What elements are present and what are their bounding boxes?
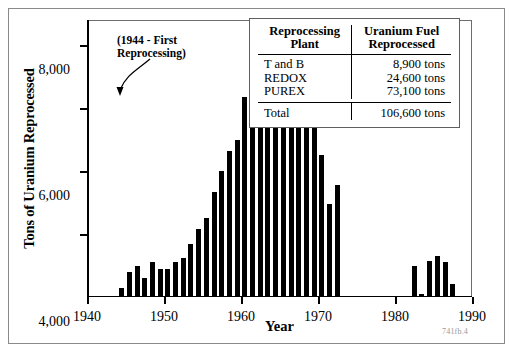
y-tick-mark: 6,000 [80, 108, 87, 110]
table-header-row: Reprocessing Plant Uranium Fuel Reproces… [258, 25, 451, 55]
table-total-row: Total106,600 tons [258, 102, 451, 120]
x-tick-mark: 1980 [395, 297, 397, 304]
x-axis-title: Year [87, 318, 472, 335]
header-plant: Reprocessing Plant [258, 25, 352, 55]
annotation-line-2: Reprocessing) [117, 47, 186, 60]
y-tick-label: 8,000 [39, 62, 71, 78]
header-amount: Uranium Fuel Reprocessed [352, 25, 451, 55]
cell-total-label: Total [258, 102, 352, 120]
y-tick-mark: 8,000 [80, 45, 87, 47]
annotation-first-reprocessing: (1944 - First Reprocessing) [117, 34, 186, 60]
x-tick-mark: 1990 [472, 297, 474, 304]
x-tick-mark: 1970 [318, 297, 320, 304]
table-row: REDOX24,600 tons [258, 72, 451, 86]
figure-id-label: 741fb.4 [442, 327, 468, 336]
inset-summary-table: Reprocessing Plant Uranium Fuel Reproces… [249, 18, 460, 128]
table-row: PUREX73,100 tons [258, 85, 451, 99]
cell-plant: PUREX [258, 85, 352, 99]
y-axis-title: Tons of Uranium Reprocessed [21, 54, 38, 264]
cell-total-amount: 106,600 tons [352, 102, 451, 120]
x-tick-mark: 1950 [164, 297, 166, 304]
figure-container: Tons of Uranium Reprocessed 2,0004,0006,… [0, 0, 513, 352]
y-tick-mark: 4,000 [80, 171, 87, 173]
reprocessing-table: Reprocessing Plant Uranium Fuel Reproces… [258, 25, 451, 120]
y-tick-label: 4,000 [39, 314, 71, 330]
cell-amount: 73,100 tons [352, 85, 451, 99]
cell-plant: T and B [258, 55, 352, 72]
cell-amount: 24,600 tons [352, 72, 451, 86]
table-row: T and B8,900 tons [258, 55, 451, 72]
cell-plant: REDOX [258, 72, 352, 86]
x-tick-mark: 1960 [241, 297, 243, 304]
cell-amount: 8,900 tons [352, 55, 451, 72]
table-body: T and B8,900 tonsREDOX24,600 tonsPUREX73… [258, 55, 451, 121]
annotation-line-1: (1944 - First [117, 34, 186, 47]
y-tick-label: 6,000 [39, 188, 71, 204]
y-tick-mark: 2,000 [80, 234, 87, 236]
x-tick-mark: 1940 [87, 297, 89, 304]
